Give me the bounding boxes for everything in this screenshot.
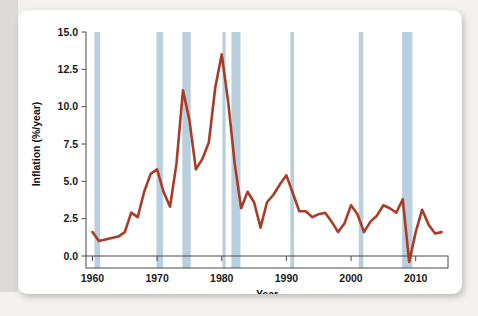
y-axis-tick-label: 2.5	[63, 212, 78, 224]
x-axis-title: Year	[256, 288, 278, 294]
axis-frame-group	[86, 32, 448, 268]
recession-band	[231, 32, 240, 268]
y-axis-tick-label: 10.0	[58, 100, 79, 112]
inflation-line-chart: 0.02.55.07.510.012.515.0 196019701980199…	[18, 10, 462, 294]
x-axis-tick-label: 1990	[275, 272, 299, 284]
y-axis-title: Inflation (%/year)	[30, 102, 42, 187]
y-axis-ticks-group: 0.02.55.07.510.012.515.0	[58, 26, 86, 262]
x-axis-tick-label: 1970	[145, 272, 169, 284]
y-axis-tick-label: 7.5	[63, 138, 78, 150]
figure-card: 0.02.55.07.510.012.515.0 196019701980199…	[18, 10, 462, 294]
recession-band	[156, 32, 162, 268]
y-axis-tick-label: 0.0	[63, 250, 78, 262]
x-axis-tick-label: 1960	[81, 272, 105, 284]
recession-band	[94, 32, 100, 268]
x-axis-tick-label: 2000	[339, 272, 363, 284]
x-axis-tick-label: 2010	[404, 272, 428, 284]
recession-band	[290, 32, 294, 268]
y-axis-tick-label: 15.0	[58, 26, 79, 38]
x-axis-ticks-group: 196019701980199020002010	[81, 256, 428, 284]
x-axis-tick-label: 1980	[210, 272, 234, 284]
y-axis-tick-label: 5.0	[63, 175, 78, 187]
x-axis-strip	[86, 256, 448, 268]
recession-band	[222, 32, 225, 268]
recession-band	[182, 32, 190, 268]
page-left-gutter	[0, 0, 18, 292]
data-line-group	[92, 54, 441, 262]
recession-bands-group	[94, 32, 412, 268]
recession-band	[402, 32, 412, 268]
page-background: 0.02.55.07.510.012.515.0 196019701980199…	[0, 0, 478, 316]
inflation-series-line	[92, 54, 441, 262]
y-axis-tick-label: 12.5	[58, 63, 79, 75]
chart-svg: 0.02.55.07.510.012.515.0 196019701980199…	[18, 10, 462, 294]
recession-band	[359, 32, 364, 268]
